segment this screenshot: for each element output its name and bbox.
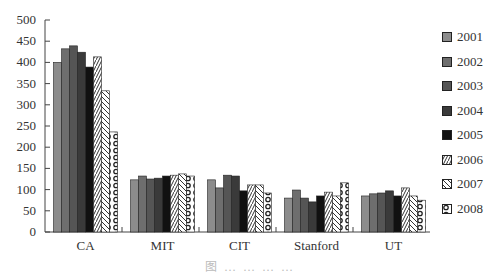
legend-swatch	[442, 57, 452, 67]
legend-label: 2007	[457, 176, 483, 192]
bar-CA-2005	[86, 67, 94, 232]
bar-Stanford-2008	[341, 183, 349, 232]
bar-CA-2001	[54, 62, 62, 232]
bar-CIT-2003	[224, 175, 232, 232]
x-category-label: UT	[359, 239, 429, 252]
legend-swatch	[442, 130, 452, 140]
x-category-label: Stanford	[282, 239, 352, 252]
legend-swatch	[442, 155, 452, 165]
y-tick-label: 300	[2, 98, 36, 111]
bar-UT-2008	[418, 200, 426, 232]
legend-swatch	[442, 179, 452, 189]
bar-UT-2002	[370, 194, 378, 232]
y-tick-label: 150	[2, 161, 36, 174]
legend-swatch	[442, 81, 452, 91]
legend-item: 2001	[442, 30, 483, 44]
bar-MIT-2003	[147, 179, 155, 232]
bar-CIT-2007	[256, 185, 264, 232]
x-category-label: MIT	[128, 239, 198, 252]
bar-CIT-2004	[232, 176, 240, 232]
bar-UT-2005	[394, 196, 402, 232]
bar-MIT-2002	[139, 176, 147, 232]
plot-area	[0, 0, 495, 272]
bar-Stanford-2004	[309, 202, 317, 232]
bar-UT-2001	[362, 196, 370, 232]
bar-CIT-2002	[216, 188, 224, 232]
legend-label: 2003	[457, 78, 483, 94]
bar-Stanford-2007	[333, 196, 341, 232]
bar-chart: 050100150200250300350400450500 CAMITCITS…	[0, 0, 495, 272]
bar-Stanford-2006	[325, 192, 333, 232]
bar-MIT-2008	[187, 176, 195, 232]
legend-item: 2003	[442, 79, 483, 93]
x-category-label: CIT	[205, 239, 275, 252]
bar-Stanford-2003	[301, 198, 309, 232]
figure-caption: 图 … … … …	[140, 257, 360, 272]
legend-item: 2007	[442, 177, 483, 191]
legend-item: 2005	[442, 128, 483, 142]
legend-label: 2001	[457, 29, 483, 45]
bar-CIT-2005	[240, 191, 248, 232]
bar-MIT-2005	[163, 176, 171, 232]
x-category-label: CA	[51, 239, 121, 252]
y-tick-label: 50	[2, 204, 36, 217]
bar-CA-2007	[102, 91, 110, 232]
legend-label: 2008	[457, 201, 483, 217]
bar-MIT-2001	[131, 180, 139, 232]
bar-UT-2004	[386, 191, 394, 232]
bar-UT-2006	[402, 188, 410, 232]
legend-item: 2008	[442, 202, 483, 216]
legend-label: 2006	[457, 152, 483, 168]
y-tick-label: 200	[2, 140, 36, 153]
legend-swatch	[442, 32, 452, 42]
legend-label: 2005	[457, 127, 483, 143]
y-tick-label: 250	[2, 119, 36, 132]
bar-UT-2007	[410, 196, 418, 232]
bar-CIT-2006	[248, 185, 256, 232]
bar-CIT-2008	[264, 193, 272, 232]
legend-item: 2004	[442, 104, 483, 118]
legend-item: 2002	[442, 55, 483, 69]
y-tick-label: 400	[2, 55, 36, 68]
legend-item: 2006	[442, 153, 483, 167]
bar-CA-2008	[110, 132, 118, 232]
bar-MIT-2004	[155, 178, 163, 232]
y-tick-label: 350	[2, 77, 36, 90]
y-tick-label: 450	[2, 34, 36, 47]
bar-Stanford-2001	[285, 198, 293, 232]
bar-CA-2002	[62, 49, 70, 232]
bar-CIT-2001	[208, 180, 216, 232]
legend-swatch	[442, 204, 452, 214]
bar-CA-2004	[78, 52, 86, 232]
legend-swatch	[442, 106, 452, 116]
bar-MIT-2006	[171, 175, 179, 232]
bar-MIT-2007	[179, 174, 187, 232]
bar-UT-2003	[378, 193, 386, 232]
y-tick-label: 100	[2, 183, 36, 196]
bar-Stanford-2005	[317, 196, 325, 232]
bar-CA-2006	[94, 57, 102, 232]
legend-label: 2002	[457, 54, 483, 70]
bar-CA-2003	[70, 46, 78, 232]
bar-Stanford-2002	[293, 190, 301, 232]
y-tick-label: 500	[2, 13, 36, 26]
legend-label: 2004	[457, 103, 483, 119]
y-tick-label: 0	[2, 225, 36, 238]
